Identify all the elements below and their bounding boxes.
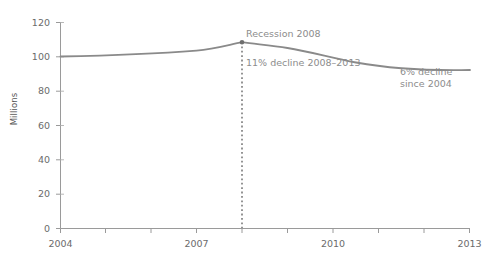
- annotation-six-percent-decline-line1: 6% decline: [400, 66, 452, 78]
- x-tick-label-2007: 2007: [174, 238, 220, 249]
- y-tick-label-40: 40: [16, 154, 50, 165]
- recession-peak-marker: [240, 40, 245, 45]
- y-tick-nubs: [61, 23, 65, 195]
- x-tick-label-2004: 2004: [38, 238, 84, 249]
- x-tick-label-2010: 2010: [310, 238, 356, 249]
- y-tick-marks: [56, 23, 61, 229]
- y-tick-label-60: 60: [16, 120, 50, 131]
- x-tick-marks: [61, 229, 470, 234]
- y-tick-label-100: 100: [16, 51, 50, 62]
- annotation-recession-2008: Recession 2008: [246, 28, 321, 40]
- annotation-decline-2008-2013: 11% decline 2008–2013: [246, 57, 361, 69]
- y-tick-label-20: 20: [16, 188, 50, 199]
- y-tick-label-120: 120: [16, 17, 50, 28]
- line-chart-figure: Millions 120 100 80 60 40 20 0 2004 2007…: [0, 0, 495, 258]
- x-tick-label-2013: 2013: [447, 238, 493, 249]
- annotation-six-percent-decline-line2: since 2004: [400, 78, 452, 90]
- y-tick-label-0: 0: [16, 223, 50, 234]
- y-tick-label-80: 80: [16, 85, 50, 96]
